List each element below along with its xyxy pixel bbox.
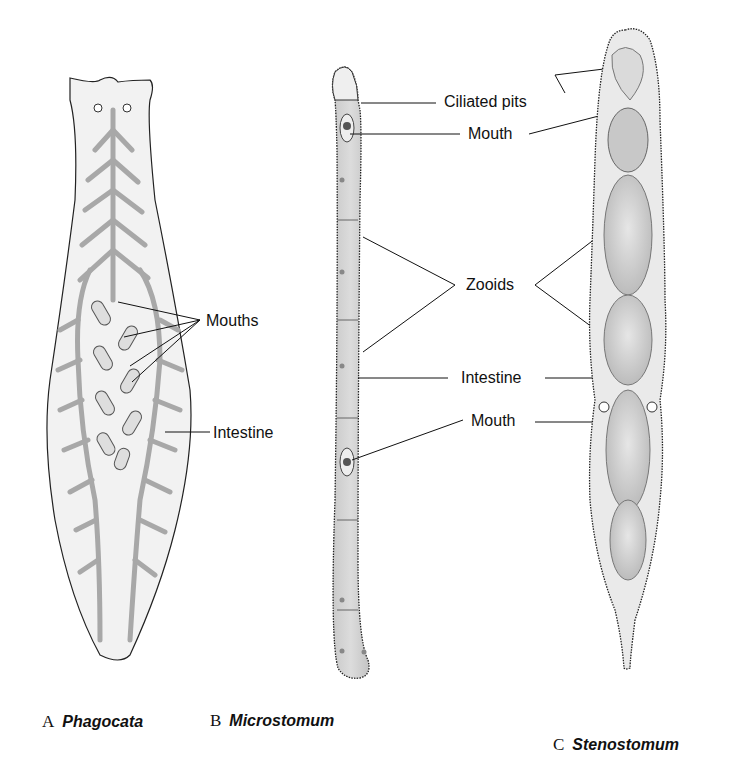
caption-a-letter: A xyxy=(42,712,54,731)
caption-c: CStenostomum xyxy=(553,736,679,753)
label-intestine-b: Intestine xyxy=(461,370,521,386)
caption-c-name: Stenostomum xyxy=(572,736,679,753)
illustration xyxy=(0,0,750,778)
label-mouth-bottom: Mouth xyxy=(471,413,515,429)
microstomum-drawing xyxy=(333,67,370,678)
caption-b: BMicrostomum xyxy=(210,712,334,729)
caption-a: APhagocata xyxy=(42,713,143,730)
label-intestine-a: Intestine xyxy=(213,425,273,441)
label-ciliated-pits: Ciliated pits xyxy=(444,94,527,110)
caption-a-name: Phagocata xyxy=(62,713,143,730)
label-zooids: Zooids xyxy=(466,277,514,293)
label-mouths: Mouths xyxy=(206,313,258,329)
caption-b-letter: B xyxy=(210,711,221,730)
flatworm-figure: Mouths Intestine Ciliated pits Mouth Zoo… xyxy=(0,0,750,778)
label-mouth-top: Mouth xyxy=(468,126,512,142)
stenostomum-drawing xyxy=(590,29,666,669)
caption-c-letter: C xyxy=(553,735,564,754)
phagocata-drawing xyxy=(47,77,210,660)
caption-b-name: Microstomum xyxy=(229,712,334,729)
